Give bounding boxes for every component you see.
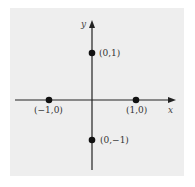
point-label-1-0: (1,0) — [126, 105, 147, 115]
point-label-0-neg1: (0,−1) — [100, 135, 129, 145]
point-label-0-1: (0,1) — [99, 48, 120, 58]
x-axis-label: x — [168, 105, 173, 115]
point-0-1 — [89, 50, 96, 57]
point-1-0 — [133, 97, 140, 104]
coordinate-plane: y x (0,1) (−1,0) (1,0) (0,−1) — [0, 0, 195, 187]
x-axis-arrow-icon — [168, 97, 176, 103]
point-neg1-0 — [46, 97, 53, 104]
y-axis-arrow-icon — [89, 20, 95, 28]
y-axis-label: y — [80, 19, 87, 29]
point-label-neg1-0: (−1,0) — [34, 105, 63, 115]
point-0-neg1 — [89, 137, 96, 144]
